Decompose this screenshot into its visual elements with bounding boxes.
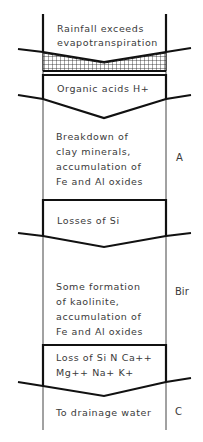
rainfall-text: Rainfall exceeds evapotranspiration (57, 22, 158, 50)
horizon-label-bir: Bir (175, 286, 189, 297)
text-line: Some formation (56, 279, 143, 294)
organic-acids-text: Organic acids H+ (57, 82, 149, 96)
horizon-label-a: A (176, 152, 183, 163)
text-line: Losses of Si (57, 214, 120, 228)
text-line: accumulation of (56, 309, 143, 324)
text-line: Fe and Al oxides (56, 174, 143, 189)
text-line: of kaolinite, (56, 294, 143, 309)
text-line: Rainfall exceeds (57, 22, 158, 36)
text-line: evapotranspiration (57, 36, 158, 50)
text-line: To drainage water (56, 406, 151, 420)
text-line: Organic acids H+ (57, 82, 149, 96)
text-line: Fe and Al oxides (56, 324, 143, 339)
kaolinite-text: Some formation of kaolinite, accumulatio… (56, 279, 143, 339)
breakdown-text: Breakdown of clay minerals, accumulation… (56, 129, 143, 189)
loss-ions-text: Loss of Si N Ca++ Mg++ Na+ K+ (56, 350, 152, 380)
text-line: Loss of Si N Ca++ (56, 350, 152, 365)
drainage-text: To drainage water (56, 406, 151, 420)
text-line: Breakdown of (56, 129, 143, 144)
text-line: Mg++ Na+ K+ (56, 365, 152, 380)
text-line: accumulation of (56, 159, 143, 174)
horizon-label-c: C (175, 406, 182, 417)
losses-si-text: Losses of Si (57, 214, 120, 228)
text-line: clay minerals, (56, 144, 143, 159)
